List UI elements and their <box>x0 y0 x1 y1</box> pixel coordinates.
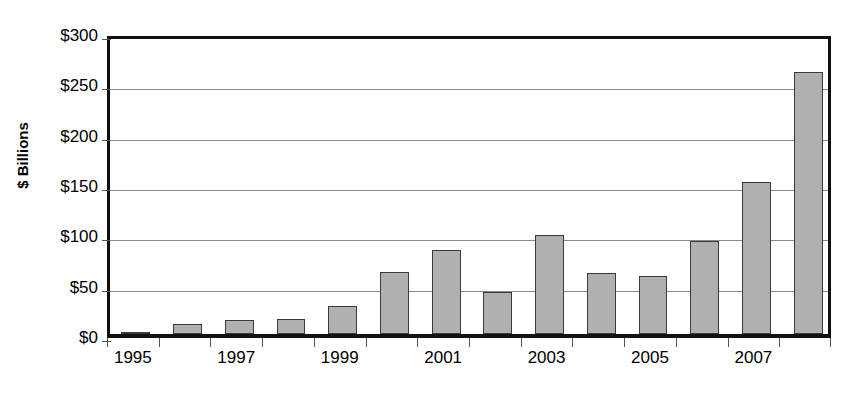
x-axis-tick-mark <box>676 338 677 347</box>
bar-chart: $ Billions $0$50$100$150$200$250$300 199… <box>0 0 851 396</box>
x-axis-tick-marks <box>107 338 831 348</box>
bar <box>587 273 616 334</box>
bar <box>121 332 150 334</box>
bar <box>328 306 357 334</box>
bar <box>639 276 668 334</box>
x-axis-tick-mark <box>624 338 625 347</box>
x-axis-tick-label: 2007 <box>718 348 788 368</box>
x-axis-tick-mark <box>779 338 780 347</box>
bar <box>742 182 771 334</box>
bar <box>380 272 409 334</box>
bar <box>483 292 512 334</box>
x-axis-tick-mark <box>159 338 160 347</box>
y-axis-tick-labels: $0$50$100$150$200$250$300 <box>26 0 98 396</box>
bar <box>225 320 254 334</box>
bar <box>535 235 564 334</box>
x-axis-tick-mark <box>417 338 418 347</box>
y-axis-tick-label: $250 <box>26 77 98 94</box>
bar-series <box>110 39 828 334</box>
y-axis-tick-label: $300 <box>26 27 98 44</box>
x-axis-tick-mark <box>210 338 211 347</box>
y-axis-tick-label: $150 <box>26 178 98 195</box>
bar <box>432 250 461 334</box>
bar <box>794 72 823 334</box>
x-axis-tick-label: 2001 <box>408 348 478 368</box>
x-axis-tick-mark <box>107 338 108 347</box>
x-axis-tick-mark <box>366 338 367 347</box>
y-axis-tick-label: $100 <box>26 228 98 245</box>
y-axis-tick-label: $200 <box>26 128 98 145</box>
y-axis-tick-label: $0 <box>26 329 98 346</box>
x-axis-tick-label: 1997 <box>201 348 271 368</box>
x-axis-tick-label: 2003 <box>512 348 582 368</box>
x-axis-tick-labels: 1995199719992001200320052007 <box>107 348 831 378</box>
plot-area <box>107 36 831 338</box>
x-axis-tick-mark <box>728 338 729 347</box>
x-axis-tick-mark <box>314 338 315 347</box>
x-axis-tick-mark <box>830 338 831 347</box>
x-axis-tick-label: 1999 <box>305 348 375 368</box>
bar <box>173 324 202 334</box>
x-axis-tick-mark <box>521 338 522 347</box>
x-axis-tick-label: 2005 <box>615 348 685 368</box>
bar <box>277 319 306 334</box>
bar <box>690 241 719 334</box>
y-axis-tick-label: $50 <box>26 279 98 296</box>
x-axis-tick-mark <box>572 338 573 347</box>
x-axis-tick-mark <box>262 338 263 347</box>
x-axis-tick-label: 1995 <box>98 348 168 368</box>
x-axis-tick-mark <box>469 338 470 347</box>
